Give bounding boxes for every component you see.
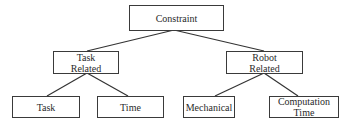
node-time: Time bbox=[97, 96, 164, 118]
node-mechanical: Mechanical bbox=[183, 96, 235, 118]
node-task-related-line1: Task bbox=[77, 52, 96, 63]
node-computation-time: Computation Time bbox=[269, 96, 339, 118]
edge-constraint-task-related bbox=[87, 30, 174, 51]
node-computation-time-line2: Time bbox=[294, 107, 315, 118]
node-time-label: Time bbox=[120, 102, 141, 113]
node-robot-related-line2: Related bbox=[249, 63, 280, 74]
constraint-hierarchy-diagram: Constraint Task Related Robot Related Ta… bbox=[0, 0, 344, 128]
edge-task-related-time bbox=[87, 73, 128, 96]
node-task-label: Task bbox=[37, 102, 56, 113]
node-task-related-line2: Related bbox=[71, 63, 102, 74]
node-robot-related: Robot Related bbox=[226, 51, 303, 74]
node-mechanical-label: Mechanical bbox=[186, 102, 233, 113]
node-constraint-label: Constraint bbox=[156, 13, 198, 24]
edge-constraint-robot-related bbox=[174, 30, 264, 51]
edge-robot-related-mechanical bbox=[215, 73, 264, 96]
node-task-related: Task Related bbox=[53, 51, 119, 74]
node-computation-time-line1: Computation bbox=[278, 96, 330, 107]
edge-task-related-task bbox=[47, 73, 87, 96]
edge-robot-related-computation-time bbox=[264, 73, 298, 96]
node-constraint: Constraint bbox=[129, 5, 224, 31]
node-task: Task bbox=[12, 96, 80, 118]
node-robot-related-line1: Robot bbox=[252, 52, 276, 63]
